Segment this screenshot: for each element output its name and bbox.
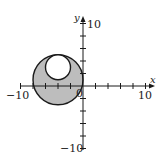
y-axis-label: y: [73, 12, 80, 23]
y-max-label: 10: [87, 18, 101, 31]
y-min-label: −10: [60, 142, 83, 155]
coordinate-plane: y 10 x 10 −10 0 −10: [0, 0, 161, 160]
x-max-label: 10: [138, 89, 152, 102]
origin-label: 0: [76, 87, 83, 100]
x-min-label: −10: [6, 89, 29, 102]
x-axis-label: x: [150, 74, 156, 85]
inner-circle: [46, 55, 71, 80]
